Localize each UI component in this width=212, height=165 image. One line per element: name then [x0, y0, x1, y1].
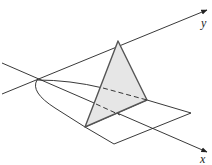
x-axis-label: x	[199, 152, 206, 165]
base-curve-lower	[35, 80, 85, 127]
triangle-cross-section	[85, 41, 147, 127]
base-curve-upper	[37, 80, 103, 88]
solid-cross-section-diagram: y x	[0, 0, 212, 165]
y-axis-label: y	[200, 16, 207, 30]
